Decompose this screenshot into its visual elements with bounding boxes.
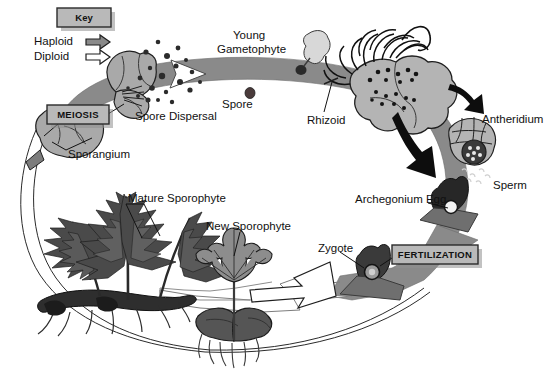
- key-title: Key: [75, 12, 93, 23]
- stage-box-meiosis-label: MEIOSIS: [57, 109, 99, 120]
- label-sporangium: Sporangium: [68, 148, 130, 160]
- label-sperm: Sperm: [493, 179, 527, 191]
- stage-box-meiosis[interactable]: MEIOSIS: [47, 105, 113, 128]
- label-archegonium-egg: Archegonium Egg: [355, 193, 446, 205]
- label-antheridium: Antheridium: [482, 113, 543, 125]
- label-young-gametophyte-line2: Gametophyte: [217, 43, 286, 55]
- label-rhizoid: Rhizoid: [307, 114, 345, 126]
- label-new-sporophyte: New Sporophyte: [206, 220, 291, 232]
- frond-center: [76, 192, 176, 300]
- label-young-gametophyte-line1: Young: [233, 29, 265, 41]
- key-panel: Key Haploid Diploid: [34, 8, 115, 64]
- egg-cell: [445, 201, 458, 214]
- stage-box-fertilization-label: FERTILIZATION: [398, 249, 472, 260]
- diagram-canvas: Young Gametophyte Spore Dispersal Spore …: [0, 0, 544, 371]
- label-zygote: Zygote: [318, 242, 353, 254]
- key-item-diploid-label: Diploid: [34, 50, 69, 62]
- label-spore: Spore: [222, 98, 253, 110]
- bursting-sporangium: [107, 51, 156, 118]
- fern-life-cycle-diagram: Young Gametophyte Spore Dispersal Spore …: [0, 0, 544, 371]
- label-mature-sporophyte: Mature Sporophyte: [128, 192, 226, 204]
- key-haploid-arrow-icon: [86, 35, 110, 49]
- stage-box-fertilization[interactable]: FERTILIZATION: [392, 245, 482, 268]
- key-diploid-arrow-icon: [86, 50, 110, 64]
- key-item-haploid-label: Haploid: [34, 35, 73, 47]
- label-spore-dispersal: Spore Dispersal: [135, 110, 217, 122]
